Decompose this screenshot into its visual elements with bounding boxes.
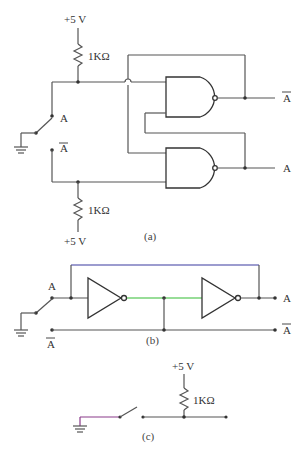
switch-b-a-label: A (48, 280, 56, 292)
resistor-c-icon (180, 388, 188, 410)
inverter-2-icon (202, 278, 235, 318)
switch-c-lever-icon (120, 407, 137, 417)
resistor-bottom-icon (74, 198, 82, 220)
circuit-a: +5 V 1KΩ A A 1KΩ +5 V (14, 13, 291, 247)
output-abar-label: A (283, 92, 291, 104)
switch-a-label: A (60, 112, 68, 124)
switch-abar-label: A (60, 142, 68, 154)
supply-c-label: +5 V (172, 360, 194, 372)
supply-bottom-label: +5 V (64, 235, 86, 247)
switch-lever-icon (36, 118, 52, 133)
switch-b-abar-label: A (47, 338, 55, 350)
supply-top-label: +5 V (64, 13, 86, 25)
caption-b: (b) (146, 334, 159, 347)
ground-c-icon (73, 426, 87, 432)
caption-a: (a) (144, 230, 157, 243)
output-b-abar-label: A (283, 324, 291, 336)
nand-gate-top-icon (166, 77, 215, 117)
ground-b-icon (14, 330, 28, 336)
caption-c: (c) (142, 430, 155, 443)
resistor-c-label: 1KΩ (193, 394, 215, 406)
resistor-bottom-label: 1KΩ (88, 204, 110, 216)
nand-gate-bottom-icon (166, 148, 215, 188)
resistor-top-icon (74, 44, 82, 66)
circuit-b: A A A A (b) (14, 265, 291, 350)
ground-icon (14, 147, 28, 153)
circuit-c: +5 V 1KΩ (c) (73, 360, 228, 443)
output-a-label: A (283, 162, 291, 174)
inverter-1-icon (88, 278, 121, 318)
circuit-diagrams: +5 V 1KΩ A A 1KΩ +5 V (0, 0, 306, 457)
resistor-top-label: 1KΩ (88, 50, 110, 62)
output-b-a-label: A (283, 292, 291, 304)
